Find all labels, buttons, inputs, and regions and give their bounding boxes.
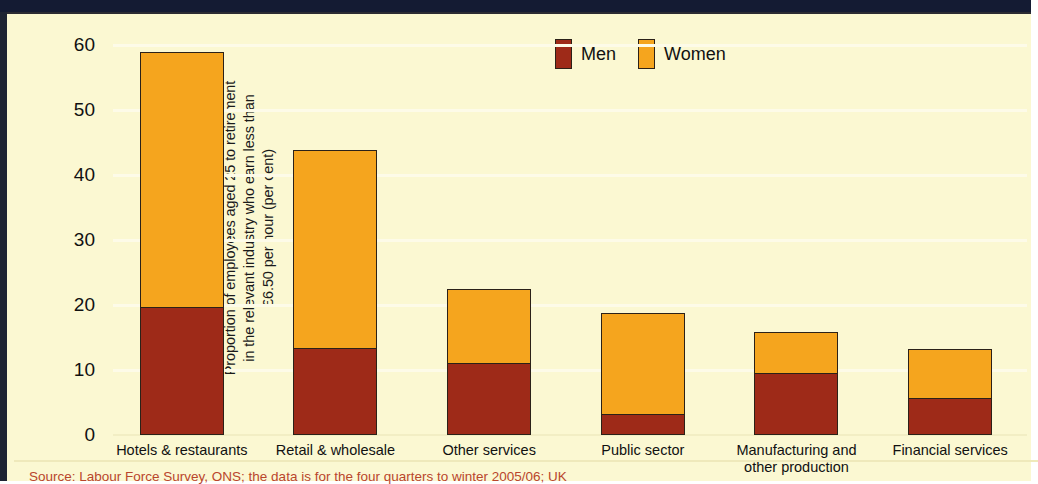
x-axis-category-label: Hotels & restaurants [116, 442, 247, 459]
stacked-bar[interactable] [754, 332, 838, 435]
bar-segment-women[interactable] [294, 151, 376, 348]
y-tick-label-50: 50 [74, 99, 95, 121]
bar-segment-women[interactable] [602, 314, 684, 413]
y-tick-label-30: 30 [74, 229, 95, 251]
x-axis-category-label: Other services [442, 442, 535, 459]
stacked-bar[interactable] [601, 313, 685, 435]
y-tick-label-0: 0 [84, 424, 95, 446]
x-axis-category-label-line: Retail & wholesale [276, 442, 395, 459]
bar-group[interactable]: Retail & wholesale [259, 45, 413, 435]
x-axis-category-label-line: Hotels & restaurants [116, 442, 247, 459]
bar-segment-men[interactable] [602, 414, 684, 434]
bar-segment-men[interactable] [141, 307, 223, 434]
x-axis-category-label-line: Other services [442, 442, 535, 459]
x-axis-category-label: Public sector [601, 442, 684, 459]
x-axis-category-label-line: Public sector [601, 442, 684, 459]
bar-segment-women[interactable] [755, 333, 837, 373]
bar-segment-women[interactable] [448, 290, 530, 363]
y-axis-title: Proportion of employees aged 25 to retir… [12, 28, 64, 428]
x-axis-category-label: Financial services [893, 442, 1008, 459]
y-tick-label-60: 60 [74, 34, 95, 56]
bar-group[interactable]: Financial services [873, 45, 1027, 435]
bar-segment-women[interactable] [909, 350, 991, 397]
x-axis-category-label-line: Financial services [893, 442, 1008, 459]
bar-group[interactable]: Manufacturing andother production [720, 45, 874, 435]
plot-area: 0102030405060Hotels & restaurantsRetail … [105, 45, 1027, 435]
stacked-bar[interactable] [908, 349, 992, 435]
source-note: Source: Labour Force Survey, ONS; the da… [29, 469, 567, 484]
bar-segment-women[interactable] [141, 53, 223, 308]
x-axis-category-label: Manufacturing andother production [736, 442, 856, 476]
x-axis-category-label-line: Manufacturing and [736, 442, 856, 459]
bar-segment-men[interactable] [755, 373, 837, 434]
bar-group[interactable]: Public sector [566, 45, 720, 435]
y-tick-label-40: 40 [74, 164, 95, 186]
stacked-bar[interactable] [447, 289, 531, 435]
bar-segment-men[interactable] [448, 363, 530, 434]
bar-segment-men[interactable] [909, 398, 991, 434]
top-dark-band [0, 0, 1031, 12]
stacked-bar[interactable] [293, 150, 377, 435]
left-border-rule [0, 12, 7, 481]
y-tick-label-10: 10 [74, 359, 95, 381]
stacked-bar[interactable] [140, 52, 224, 436]
bar-segment-men[interactable] [294, 348, 376, 434]
bar-group[interactable]: Hotels & restaurants [105, 45, 259, 435]
x-axis-category-label: Retail & wholesale [276, 442, 395, 459]
source-divider [14, 460, 1038, 462]
bar-group[interactable]: Other services [412, 45, 566, 435]
y-tick-label-20: 20 [74, 294, 95, 316]
plot-region: 0102030405060Hotels & restaurantsRetail … [105, 45, 1027, 435]
chart-canvas: Proportion of employees aged 25 to retir… [7, 14, 1031, 481]
